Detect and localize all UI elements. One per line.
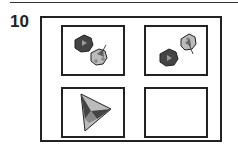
puzzle-cell-top-right	[144, 25, 208, 76]
puzzle-cell-bottom-left	[61, 87, 125, 138]
puzzle-cell-top-left	[61, 25, 125, 76]
puzzle-cell-bottom-right-answer-blank	[144, 87, 208, 138]
heptagon-pair-icon	[63, 27, 123, 74]
triangle-composite-icon	[63, 89, 123, 136]
heptagon-pair-icon	[146, 27, 206, 74]
top-divider-line	[10, 2, 238, 3]
question-number: 10	[10, 12, 29, 32]
